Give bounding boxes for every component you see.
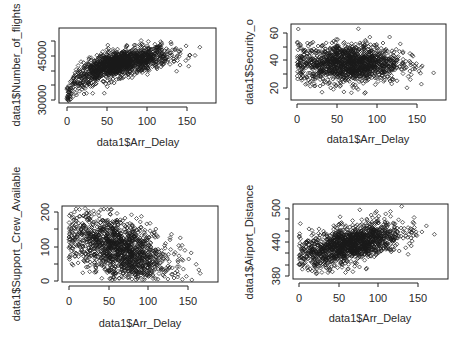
y-axis-label: data1$Support_Crew_Available <box>10 167 22 322</box>
scatter-points <box>67 206 202 282</box>
plot-support-crew: 0 50 100 150 0 100 200 data1$Arr_Delay d… <box>10 167 218 329</box>
x-tick-label: 50 <box>333 292 345 304</box>
y-axis-label: data1$Security_o <box>243 19 255 105</box>
x-axis: 0 50 100 150 <box>66 286 197 307</box>
y-tick-label: 440 <box>270 233 282 251</box>
x-tick-label: 100 <box>369 292 387 304</box>
x-axis-label: data1$Arr_Delay <box>327 133 410 145</box>
y-tick-label: 60 <box>268 27 280 39</box>
x-tick-label: 150 <box>178 115 196 127</box>
y-tick-label: 30000 <box>36 85 48 116</box>
x-tick-label: 150 <box>408 113 426 125</box>
plot-airport-distance: 0 50 100 150 380 440 500 data1$Arr_Delay… <box>243 185 448 324</box>
y-tick-label: 500 <box>270 199 282 217</box>
y-axis: 380 440 500 <box>270 199 289 285</box>
x-tick-label: 50 <box>103 295 115 307</box>
y-axis: 20 40 60 <box>268 27 287 94</box>
x-tick-label: 0 <box>66 295 72 307</box>
y-tick-label: 100 <box>39 238 51 256</box>
scatter-matrix-figure: 0 50 100 150 30000 45000 data1$Arr_Delay… <box>0 0 457 340</box>
x-axis: 0 50 100 150 <box>296 283 427 304</box>
x-tick-label: 0 <box>294 113 300 125</box>
x-tick-label: 50 <box>101 115 113 127</box>
x-axis: 0 50 100 150 <box>294 104 426 125</box>
x-tick-label: 0 <box>64 115 70 127</box>
y-tick-label: 200 <box>39 203 51 221</box>
y-tick-label: 20 <box>268 82 280 94</box>
y-axis: 0 100 200 <box>39 203 58 284</box>
x-tick-label: 100 <box>138 115 156 127</box>
x-axis-label: data1$Arr_Delay <box>329 312 412 324</box>
y-tick-label: 40 <box>268 54 280 66</box>
scatter-points <box>295 27 435 96</box>
y-axis: 30000 45000 <box>36 41 55 116</box>
plot-number-of-flights: 0 50 100 150 30000 45000 data1$Arr_Delay… <box>10 3 216 148</box>
y-tick-label: 45000 <box>36 41 48 72</box>
x-axis-label: data1$Arr_Delay <box>99 317 182 329</box>
x-axis-label: data1$Arr_Delay <box>97 136 180 148</box>
y-axis-label: data1$Airport_Distance <box>243 185 255 300</box>
scatter-points <box>297 204 436 275</box>
y-tick-label: 0 <box>39 278 51 284</box>
scatter-points <box>65 39 202 103</box>
x-tick-label: 0 <box>296 292 302 304</box>
x-tick-label: 150 <box>409 292 427 304</box>
x-tick-label: 100 <box>139 295 157 307</box>
x-tick-label: 100 <box>368 113 386 125</box>
x-tick-label: 150 <box>179 295 197 307</box>
x-tick-label: 50 <box>331 113 343 125</box>
plot-security: 0 50 100 150 20 40 60 data1$Arr_Delay da… <box>243 19 446 145</box>
y-axis-label: data1$Number_of_flights <box>10 3 22 126</box>
x-axis: 0 50 100 150 <box>64 107 196 127</box>
y-tick-label: 380 <box>270 267 282 285</box>
